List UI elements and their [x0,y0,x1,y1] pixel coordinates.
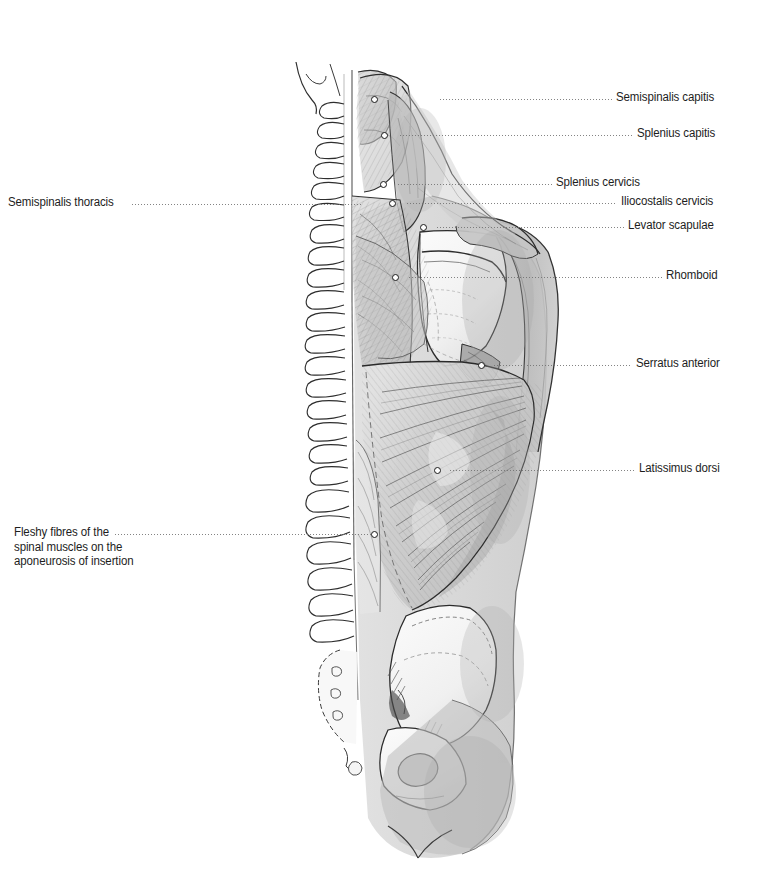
label-fleshy-fibres: Fleshy fibres of the spinal muscles on t… [14,525,133,569]
label-rhomboid: Rhomboid [666,268,718,283]
label-semispinalis-capitis: Semispinalis capitis [616,90,714,105]
leader-semispinalis-capitis [440,99,612,100]
label-semispinalis-thoracis: Semispinalis thoracis [8,195,114,210]
leader-serratus-anterior [494,365,632,366]
thoracic-vertebrae [305,225,348,486]
label-latissimus-dorsi: Latissimus dorsi [639,461,720,476]
leader-splenius-cervicis [398,184,552,185]
dot-semispinalis-capitis[interactable] [371,96,378,103]
dot-fleshy-fibres[interactable] [371,531,378,538]
label-levator-scapulae: Levator scapulae [628,218,714,233]
label-splenius-cervicis: Splenius cervicis [556,175,640,190]
dot-splenius-cervicis[interactable] [380,181,387,188]
vertebral-column [296,62,362,775]
leader-rhomboid [409,277,662,278]
label-splenius-capitis: Splenius capitis [637,126,715,141]
dot-serratus-anterior[interactable] [478,362,485,369]
dot-rhomboid[interactable] [392,274,399,281]
illustration-page: Semispinalis capitis Splenius capitis Sp… [0,0,760,888]
dot-iliocostalis-cervicis[interactable] [389,200,396,207]
leader-iliocostalis-cervicis [407,203,617,204]
dot-splenius-capitis[interactable] [381,132,388,139]
leader-semispinalis-thoracis [132,204,361,205]
occipital-bone [296,62,340,114]
dot-latissimus-dorsi[interactable] [434,467,441,474]
label-iliocostalis-cervicis: Iliocostalis cervicis [621,194,713,209]
leader-latissimus-dorsi [450,470,635,471]
label-serratus-anterior: Serratus anterior [636,356,720,371]
dot-levator-scapulae[interactable] [420,224,427,231]
lumbar-vertebrae [306,490,354,642]
leader-splenius-capitis [400,135,633,136]
sacrum [318,650,362,775]
leader-fleshy-fibres [115,534,375,535]
cervical-vertebrae [309,102,344,220]
leader-levator-scapulae [437,227,624,228]
